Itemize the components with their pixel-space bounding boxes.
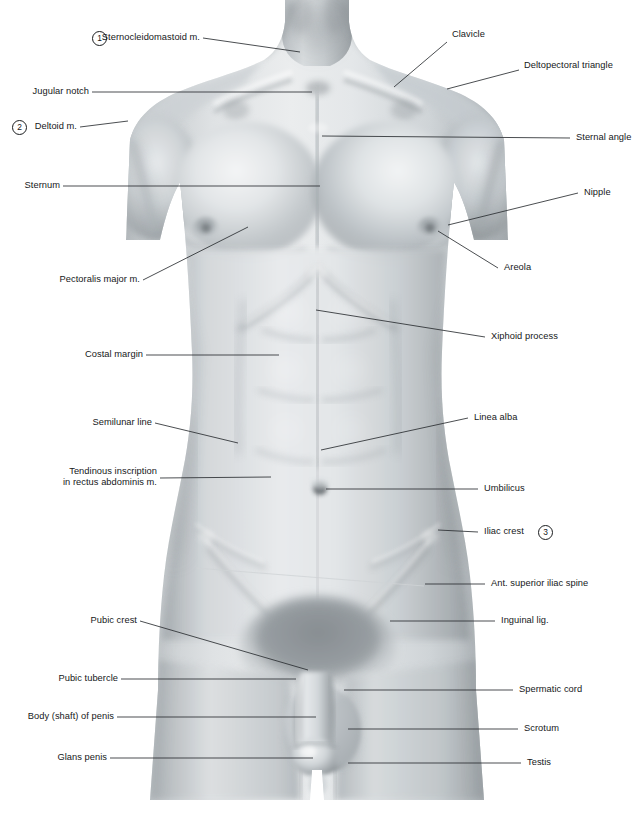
label-linea-alba[interactable]: Linea alba [474,412,517,423]
label-costal-margin[interactable]: Costal margin [0,349,143,360]
label-scrotum[interactable]: Scrotum [524,723,559,734]
label-tendinous-inscription[interactable]: Tendinous inscription in rectus abdomini… [0,466,157,489]
label-pubic-tubercle[interactable]: Pubic tubercle [0,673,118,684]
label-spermatic-cord[interactable]: Spermatic cord [519,684,582,695]
label-nipple[interactable]: Nipple [584,187,611,198]
label-jugular-notch[interactable]: Jugular notch [0,86,89,97]
label-sternum[interactable]: Sternum [0,180,60,191]
label-deltopectoral-triangle[interactable]: Deltopectoral triangle [524,60,613,71]
label-sternal-angle[interactable]: Sternal angle [576,132,631,143]
label-glans-penis[interactable]: Glans penis [0,752,107,763]
label-clavicle[interactable]: Clavicle [452,29,485,40]
label-pectoralis-major[interactable]: Pectoralis major m. [0,274,140,285]
label-tendinous-inscription-line1: Tendinous inscription [69,466,157,476]
label-sternocleidomastoid[interactable]: Sternocleidomastoid m. [0,32,200,43]
label-deltoid[interactable]: Deltoid m. [0,121,77,132]
label-pubic-crest[interactable]: Pubic crest [0,615,137,626]
label-semilunar-line[interactable]: Semilunar line [0,417,152,428]
label-areola[interactable]: Areola [504,262,531,273]
label-testis[interactable]: Testis [527,757,551,768]
label-umbilicus[interactable]: Umbilicus [484,483,525,494]
label-body-of-penis[interactable]: Body (shaft) of penis [0,711,114,722]
label-ant-superior-iliac-spine[interactable]: Ant. superior iliac spine [491,578,588,589]
anatomy-plate: 1 2 3 Sternocleidomastoid m. Jugular not… [0,0,634,816]
label-tendinous-inscription-line2: in rectus abdominis m. [0,477,157,488]
label-iliac-crest[interactable]: Iliac crest [484,526,524,537]
marker-3[interactable]: 3 [538,525,553,540]
label-xiphoid-process[interactable]: Xiphoid process [491,331,558,342]
label-inguinal-lig[interactable]: Inguinal lig. [501,615,549,626]
